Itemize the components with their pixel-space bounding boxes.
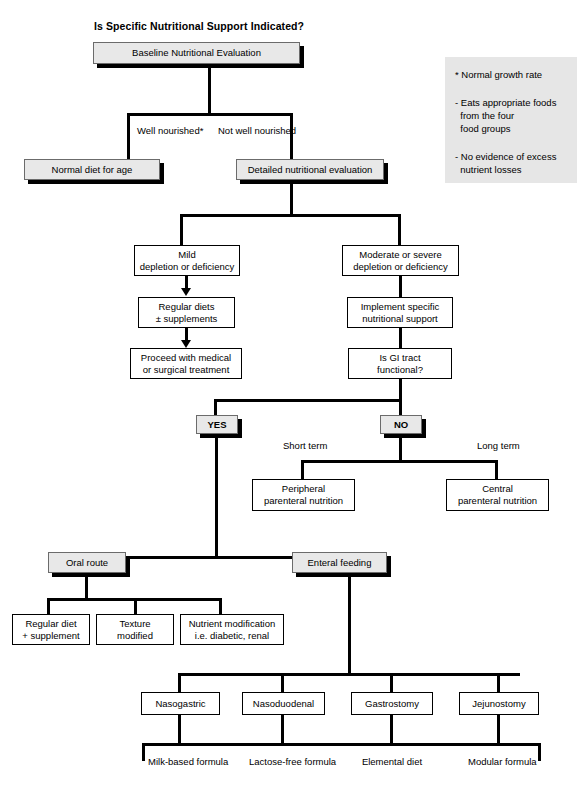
node-proceed-line2: or surgical treatment (143, 364, 230, 376)
connector-level3-split (180, 214, 401, 217)
connector-gi-stem (399, 379, 402, 401)
flowchart-canvas: Is Specific Nutritional Support Indicate… (0, 0, 577, 797)
node-yes[interactable]: YES (196, 415, 238, 434)
node-nasogastric-label: Nasogastric (155, 698, 205, 710)
node-gastrostomy-label: Gastrostomy (365, 698, 419, 710)
node-gi-line2: functional? (377, 364, 423, 376)
node-enteral-feeding[interactable]: Enteral feeding (292, 552, 387, 573)
connector-regular-diet-leg (47, 598, 50, 615)
connector-jejunostomy-leg (497, 673, 500, 693)
edge-label-long-term: Long term (477, 440, 520, 451)
node-implement-line1: Implement specific (361, 301, 440, 313)
leaf-modular-line1: Modular (468, 756, 502, 767)
node-regular-diet-supplement[interactable]: Regular diet + supplement (12, 614, 90, 645)
node-mild-line1: Mild (178, 249, 195, 261)
leaf-elemental-diet: Elemental diet (360, 756, 424, 768)
connector-short-long-split (301, 460, 498, 463)
connector-enteral-children-split (178, 673, 520, 676)
connector-mild-leg (180, 214, 183, 246)
legend-line-4: food groups (455, 123, 510, 135)
node-regular-diets-line1: Regular diets (159, 301, 215, 313)
connector-gastrostomy-leg (390, 673, 393, 693)
connector-oral-stem (85, 573, 88, 600)
connector-not-well-nourished-leg (290, 113, 293, 160)
node-peripheral-parenteral-nutrition[interactable]: Peripheral parenteral nutrition (252, 479, 355, 511)
connector-baseline-stem (208, 68, 211, 115)
node-detailed-nutritional-evaluation[interactable]: Detailed nutritional evaluation (236, 159, 384, 180)
node-central-line1: Central (482, 483, 513, 495)
leaf-lactose-free-formula: Lactose-free formula (249, 756, 321, 768)
connector-nasoduodenal-leg (281, 673, 284, 693)
leaf-milk-based-formula: Milk-based formula (148, 756, 214, 768)
node-baseline-nutritional-evaluation[interactable]: Baseline Nutritional Evaluation (93, 42, 300, 64)
node-implement-line2: nutritional support (362, 313, 438, 325)
connector-no-stem (399, 438, 402, 462)
connector-well-nourished-leg (127, 113, 130, 160)
node-central-line2: parenteral nutrition (458, 495, 537, 507)
leaf-elemental-line1: Elemental (362, 756, 404, 767)
node-moderate-severe-depletion[interactable]: Moderate or severe depletion or deficien… (342, 245, 459, 276)
connector-moderate-to-implement (399, 276, 402, 298)
connector-yes-no-split (214, 399, 402, 402)
node-moderate-line2: depletion or deficiency (353, 261, 448, 273)
node-texture-modified[interactable]: Texture modified (96, 614, 174, 645)
connector-nasogastric-down (178, 714, 181, 745)
leaf-lactose-line2: formula (304, 756, 336, 767)
connector-implement-to-gi (399, 328, 402, 349)
leaf-modular-formula: Modular formula (468, 756, 530, 768)
node-nasogastric[interactable]: Nasogastric (141, 692, 220, 715)
connector-moderate-leg (398, 214, 401, 246)
connector-formula-bar-right-tick (538, 743, 541, 761)
node-nasoduodenal-label: Nasoduodenal (253, 698, 314, 710)
legend-line-6: nutrient losses (455, 164, 522, 176)
node-regular-diets-line2: ± supplements (156, 313, 218, 325)
node-proceed-line1: Proceed with medical (141, 352, 231, 364)
connector-level1-split (127, 113, 293, 116)
edge-label-well-nourished: Well nourished* (137, 125, 203, 136)
node-peripheral-line1: Peripheral (282, 483, 325, 495)
node-oral-route-label: Oral route (66, 557, 108, 569)
node-no[interactable]: NO (380, 415, 422, 434)
connector-texture-leg (134, 598, 137, 615)
leaf-modular-line2: formula (505, 756, 537, 767)
node-yes-label: YES (207, 419, 226, 431)
node-jejunostomy-label: Jejunostomy (472, 698, 525, 710)
leaf-milk-line1: Milk-based (148, 756, 194, 767)
node-proceed-medical-surgical[interactable]: Proceed with medical or surgical treatme… (130, 348, 242, 379)
connector-nasogastric-leg (178, 673, 181, 693)
arrowhead-regular-to-proceed (181, 340, 191, 348)
node-no-label: NO (394, 419, 408, 431)
node-texture-line2: modified (117, 630, 153, 642)
node-mild-depletion[interactable]: Mild depletion or deficiency (134, 245, 240, 276)
node-normal-diet-for-age[interactable]: Normal diet for age (24, 159, 160, 180)
node-nasoduodenal[interactable]: Nasoduodenal (242, 692, 325, 715)
legend-line-3: from the four (455, 110, 514, 122)
node-moderate-line1: Moderate or severe (359, 249, 441, 261)
legend-line-5: - No evidence of excess (455, 151, 556, 163)
connector-formula-bar (142, 743, 541, 746)
node-texture-line1: Texture (119, 618, 150, 630)
leaf-elemental-line2: diet (407, 756, 422, 767)
node-detailed-eval-label: Detailed nutritional evaluation (248, 164, 373, 176)
node-regular-diet-line1: Regular diet (25, 618, 76, 630)
node-central-parenteral-nutrition[interactable]: Central parenteral nutrition (446, 479, 549, 511)
node-nutrient-mod-line1: Nutrient modification (189, 618, 276, 630)
node-implement-specific-support[interactable]: Implement specific nutritional support (347, 297, 453, 328)
node-gi-line1: Is GI tract (379, 352, 420, 364)
node-gastrostomy[interactable]: Gastrostomy (351, 692, 433, 715)
connector-formula-bar-left-tick (142, 743, 145, 761)
node-baseline-label: Baseline Nutritional Evaluation (132, 47, 261, 59)
arrowhead-mild-to-regular (181, 288, 191, 296)
node-enteral-feeding-label: Enteral feeding (308, 557, 372, 569)
legend-line-2: - Eats appropriate foods (455, 97, 556, 109)
edge-label-not-well-nourished: Not well nourished (218, 125, 296, 136)
leaf-lactose-line1: Lactose-free (249, 756, 302, 767)
node-nutrient-modification[interactable]: Nutrient modification i.e. diabetic, ren… (180, 614, 284, 645)
connector-nasoduodenal-down (281, 714, 284, 745)
node-oral-route[interactable]: Oral route (48, 552, 126, 573)
legend-panel: * Normal growth rate - Eats appropriate … (445, 57, 577, 183)
node-regular-diets-supplements[interactable]: Regular diets ± supplements (138, 297, 235, 328)
node-jejunostomy[interactable]: Jejunostomy (459, 692, 539, 715)
node-is-gi-tract-functional[interactable]: Is GI tract functional? (348, 348, 452, 379)
connector-detailed-stem (290, 184, 293, 216)
